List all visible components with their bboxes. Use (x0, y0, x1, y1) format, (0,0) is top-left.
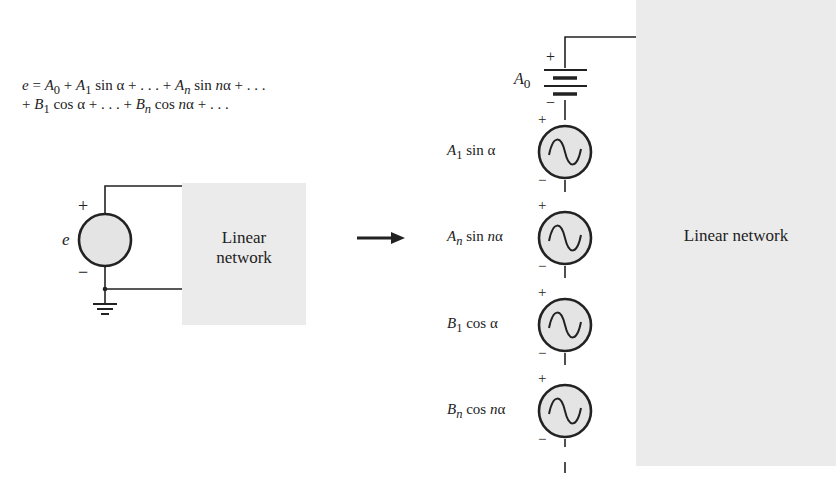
ac-source-label-b1: B1 cos α (447, 315, 498, 336)
coef: B (447, 315, 456, 331)
ac-minus-sign: − (538, 258, 546, 275)
ac-minus-sign: − (538, 172, 546, 189)
source-e: e (62, 230, 70, 249)
arg: α (487, 142, 495, 158)
coef: B (447, 401, 456, 417)
ac-plus-sign: + (538, 111, 546, 128)
arg: α (495, 228, 503, 244)
sub: n (456, 407, 462, 421)
ac-plus-sign: + (538, 284, 546, 301)
arg-n: n (487, 228, 495, 244)
ac-plus-sign: + (538, 370, 546, 387)
sub: 1 (456, 148, 462, 162)
func: sin (466, 228, 484, 244)
func: sin (466, 142, 484, 158)
sub: n (456, 234, 462, 248)
ac-source-icon (539, 385, 591, 473)
ac-source-icon (539, 126, 591, 192)
circuit-wires (0, 0, 840, 490)
ac-source-label-bn: Bn cos nα (447, 401, 505, 422)
coef: A (447, 142, 456, 158)
ac-source-icon (539, 212, 591, 278)
voltage-source-icon (79, 214, 131, 266)
sub: 1 (456, 321, 462, 335)
label-A: A (514, 70, 524, 87)
ac-source-label-an: An sin nα (447, 228, 503, 249)
dc-minus-sign: − (546, 94, 555, 112)
func: cos (466, 315, 486, 331)
arg: α (497, 401, 505, 417)
left-minus-sign: − (78, 262, 88, 283)
dc-plus-sign: + (546, 48, 555, 66)
ac-source-label-a1: A1 sin α (447, 142, 495, 163)
ground-icon (93, 304, 117, 314)
dc-source-label: A0 (514, 70, 530, 92)
ac-source-icon (539, 299, 591, 365)
dc-battery-icon (544, 70, 587, 94)
left-source-label: e (62, 230, 70, 250)
func: cos (466, 401, 486, 417)
coef: A (447, 228, 456, 244)
junction-dot (103, 287, 108, 292)
ac-plus-sign: + (538, 197, 546, 214)
label-sub: 0 (524, 76, 531, 91)
ac-minus-sign: − (538, 431, 546, 448)
left-plus-sign: + (78, 196, 88, 217)
ac-minus-sign: − (538, 345, 546, 362)
right-arrow-icon (357, 232, 405, 244)
fourier-source-diagram: e = A0 + A1 sin α + . . . + An sin nα + … (0, 0, 840, 490)
arg: α (490, 315, 498, 331)
